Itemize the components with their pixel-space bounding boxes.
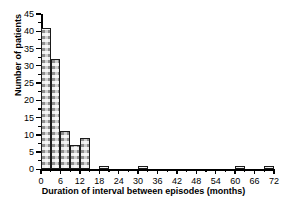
histogram-bar bbox=[235, 166, 245, 169]
histogram-bar bbox=[41, 28, 51, 170]
x-tick-minor-mark bbox=[186, 169, 187, 172]
histogram-bar bbox=[70, 145, 80, 169]
x-tick-minor-mark bbox=[244, 169, 245, 172]
x-tick-mark bbox=[99, 169, 100, 174]
x-tick-mark bbox=[196, 169, 197, 174]
y-tick-label: 20 bbox=[18, 96, 34, 105]
x-tick-mark bbox=[118, 169, 119, 174]
x-tick-mark bbox=[137, 169, 138, 174]
y-tick-label: 15 bbox=[18, 113, 34, 122]
x-tick-label: 0 bbox=[38, 177, 43, 186]
x-tick-minor-mark bbox=[225, 169, 226, 172]
x-tick-mark bbox=[40, 169, 41, 174]
x-tick-label: 30 bbox=[133, 177, 143, 186]
x-tick-minor-mark bbox=[147, 169, 148, 172]
x-tick-minor-mark bbox=[108, 169, 109, 172]
x-tick-label: 6 bbox=[58, 177, 63, 186]
x-tick-label: 18 bbox=[94, 177, 104, 186]
x-tick-label: 24 bbox=[114, 177, 124, 186]
y-tick-label: 30 bbox=[18, 61, 34, 70]
plot-area: 051015202530354045 061218243036424854606… bbox=[41, 14, 274, 171]
histogram-bar bbox=[264, 166, 274, 169]
histogram-bar bbox=[51, 59, 61, 170]
x-tick-mark bbox=[254, 169, 255, 174]
x-tick-label: 60 bbox=[230, 177, 240, 186]
x-tick-mark bbox=[157, 169, 158, 174]
x-tick-minor-mark bbox=[89, 169, 90, 172]
y-tick-label: 40 bbox=[18, 27, 34, 36]
x-tick-minor-mark bbox=[70, 169, 71, 172]
x-tick-label: 54 bbox=[211, 177, 221, 186]
x-tick-label: 72 bbox=[269, 177, 279, 186]
y-tick-mark bbox=[36, 13, 41, 14]
x-tick-mark bbox=[215, 169, 216, 174]
x-tick-minor-mark bbox=[205, 169, 206, 172]
y-tick-label: 5 bbox=[18, 148, 34, 157]
x-tick-label: 12 bbox=[75, 177, 85, 186]
y-tick-minor-mark bbox=[38, 22, 41, 23]
x-tick-minor-mark bbox=[128, 169, 129, 172]
histogram-chart: Number of patients 051015202530354045 06… bbox=[0, 0, 287, 206]
x-tick-mark bbox=[79, 169, 80, 174]
y-tick-label: 0 bbox=[18, 165, 34, 174]
x-tick-minor-mark bbox=[167, 169, 168, 172]
x-tick-minor-mark bbox=[50, 169, 51, 172]
x-tick-mark bbox=[60, 169, 61, 174]
x-tick-minor-mark bbox=[264, 169, 265, 172]
histogram-bar bbox=[99, 166, 109, 169]
histogram-bar bbox=[80, 138, 90, 169]
histogram-bar bbox=[138, 166, 148, 169]
x-axis-title: Duration of interval between episodes (m… bbox=[0, 186, 287, 196]
x-tick-label: 66 bbox=[250, 177, 260, 186]
x-tick-label: 36 bbox=[152, 177, 162, 186]
y-tick-label: 25 bbox=[18, 79, 34, 88]
y-tick-label: 45 bbox=[18, 10, 34, 19]
x-tick-mark bbox=[273, 169, 274, 174]
x-tick-mark bbox=[176, 169, 177, 174]
x-tick-label: 48 bbox=[191, 177, 201, 186]
histogram-bar bbox=[60, 131, 70, 169]
y-tick-label: 10 bbox=[18, 130, 34, 139]
y-tick-label: 35 bbox=[18, 44, 34, 53]
x-tick-mark bbox=[234, 169, 235, 174]
x-tick-label: 42 bbox=[172, 177, 182, 186]
